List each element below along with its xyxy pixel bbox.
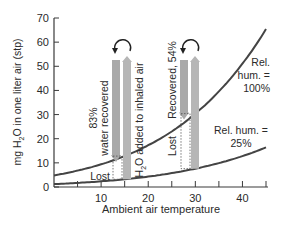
exchange-arrows bbox=[111, 40, 200, 180]
annotation-recovered-54: Recovered, 54% bbox=[166, 41, 178, 119]
series-label-rh25-line1: Rel. hum. = bbox=[214, 124, 268, 136]
series-label-rh100-line2: hum. = bbox=[238, 69, 270, 81]
x-axis-label: Ambient air temperature bbox=[102, 203, 220, 215]
curve-rh-100 bbox=[54, 29, 266, 175]
annotation-lost-warm: Lost bbox=[166, 136, 178, 156]
arrow-down-recovered bbox=[111, 60, 121, 162]
cycle-arrowhead-icon bbox=[180, 48, 186, 54]
y-axis-label: mg H2O in one liter air (stp) bbox=[11, 38, 25, 165]
h2o-added-pre: H bbox=[133, 170, 145, 178]
cycle-arrowhead-icon bbox=[112, 48, 118, 54]
series-label-rh100-line1: Rel. bbox=[251, 56, 270, 68]
humidity-chart: 01020304050607010203040 Ambient air temp… bbox=[0, 0, 287, 230]
y-tick-label: 20 bbox=[37, 133, 49, 145]
labels: Ambient air temperature mg H2O in one li… bbox=[11, 38, 270, 215]
y-tick-label: 10 bbox=[37, 157, 49, 169]
annotation-lost-cool: Lost bbox=[90, 170, 110, 182]
arrow-up-added bbox=[122, 56, 132, 179]
annotation-h2o-added: H2O added to inhaled air bbox=[133, 62, 147, 177]
h2o-added-post: O added to inhaled air bbox=[133, 62, 145, 166]
y-tick-label: 70 bbox=[37, 12, 49, 24]
arrow-up-added bbox=[190, 56, 200, 169]
curves bbox=[54, 29, 266, 184]
y-axis-label-pre: mg H bbox=[11, 140, 23, 165]
y-tick-label: 40 bbox=[37, 84, 49, 96]
annotation-water-recovered: water recovered bbox=[98, 80, 110, 156]
y-tick-label: 0 bbox=[43, 181, 49, 193]
y-tick-label: 60 bbox=[37, 36, 49, 48]
curve-rh-25 bbox=[54, 147, 266, 184]
arrow-down-recovered bbox=[179, 60, 189, 120]
x-tick-label: 40 bbox=[236, 192, 248, 204]
y-tick-label: 30 bbox=[37, 109, 49, 121]
y-tick-label: 50 bbox=[37, 60, 49, 72]
y-axis-label-post: O in one liter air (stp) bbox=[11, 38, 23, 136]
series-label-rh100-line3: 100% bbox=[243, 82, 270, 94]
series-label-rh25-line2: 25% bbox=[230, 137, 251, 149]
